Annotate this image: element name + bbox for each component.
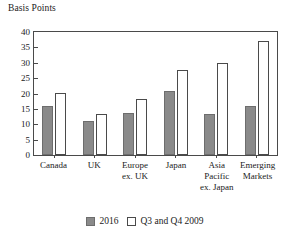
x-tick-mark [135,155,136,158]
y-tick-label: 10 [21,120,30,129]
y-tick-label: 40 [21,28,30,37]
y-axis-title: Basis Points [8,3,56,13]
bar-group [34,32,75,155]
plot-area: 0510152025303540 [33,31,278,156]
x-axis-label: UK [74,160,115,193]
bar-group [75,32,116,155]
y-tick-label: 20 [21,89,30,98]
x-tick-mark [256,155,257,158]
bar-2009 [96,114,107,155]
x-tick-mark [216,155,217,158]
x-axis-label: Emerging Markets [237,160,278,193]
bar-2016 [164,91,175,155]
bar-series-container [34,32,277,155]
x-axis-label: Europe ex. UK [115,160,156,193]
bar-2016 [83,121,94,155]
y-tick-label: 25 [21,74,30,83]
legend-swatch-2016 [86,217,95,226]
x-tick-mark [54,155,55,158]
chart-figure: Basis Points 0510152025303540 CanadaUKEu… [0,0,290,238]
bar-2016 [123,113,134,155]
chart-legend: 2016 Q3 and Q4 2009 [0,216,290,226]
x-axis-label: Japan [155,160,196,193]
bar-2009 [177,70,188,155]
bar-2009 [136,99,147,155]
bar-2009 [55,93,66,155]
legend-item-2009: Q3 and Q4 2009 [127,216,203,226]
bar-2016 [42,106,53,156]
x-axis-label: Canada [33,160,74,193]
legend-label-2016: 2016 [99,216,118,226]
y-tick-label: 0 [26,151,31,160]
legend-item-2016: 2016 [86,216,118,226]
bar-2016 [204,114,215,155]
bar-2009 [258,41,269,155]
y-tick-label: 5 [26,135,31,144]
bar-group [156,32,197,155]
y-tick-label: 35 [21,43,30,52]
legend-swatch-2009 [127,217,136,226]
bar-2016 [245,106,256,155]
bar-2009 [217,63,228,155]
y-tick-label: 15 [21,104,30,113]
y-tick-label: 30 [21,58,30,67]
legend-label-2009: Q3 and Q4 2009 [140,216,203,226]
bar-group [115,32,156,155]
x-tick-mark [94,155,95,158]
bar-group [237,32,278,155]
x-tick-mark [175,155,176,158]
x-axis-labels: CanadaUKEurope ex. UKJapanAsia Pacific e… [33,160,278,193]
bar-group [196,32,237,155]
x-axis-label: Asia Pacific ex. Japan [196,160,237,193]
